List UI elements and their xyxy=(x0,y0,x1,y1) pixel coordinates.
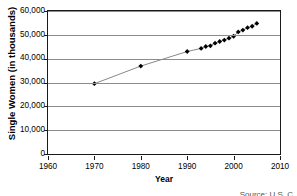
data-point-marker xyxy=(227,36,232,41)
y-axis-tick-mark xyxy=(44,35,48,36)
gridline-horizontal xyxy=(48,11,280,12)
data-point-marker xyxy=(250,24,255,29)
data-point-marker xyxy=(199,46,204,51)
x-axis-tick-mark xyxy=(48,156,49,160)
data-point-marker xyxy=(138,64,143,69)
gridline-horizontal xyxy=(48,35,280,36)
x-axis-tick-label: 1990 xyxy=(167,162,207,171)
x-axis-tick-label: 1970 xyxy=(74,162,114,171)
x-axis-tick-label: 2000 xyxy=(214,162,254,171)
gridline-horizontal xyxy=(48,83,280,84)
y-axis-tick-mark xyxy=(44,11,48,12)
x-axis-title: Year xyxy=(47,174,281,184)
series-line xyxy=(94,23,256,83)
x-axis-tick-mark xyxy=(280,156,281,160)
data-point-marker xyxy=(240,28,245,33)
x-axis-tick-mark xyxy=(187,156,188,160)
x-axis-tick-label: 2010 xyxy=(260,162,297,171)
x-axis-tick-label: 1960 xyxy=(28,162,68,171)
y-axis-tick-label: 40,000 xyxy=(3,54,45,62)
y-axis-tick-mark xyxy=(44,154,48,155)
data-point-marker xyxy=(254,21,259,26)
y-axis-tick-mark xyxy=(44,106,48,107)
data-point-marker xyxy=(203,44,208,49)
x-axis-tick-mark xyxy=(141,156,142,160)
data-point-marker xyxy=(245,25,250,30)
y-axis-tick-label: 50,000 xyxy=(3,31,45,39)
x-axis-tick-labels: 196019701980199020002010 xyxy=(0,162,297,174)
gridline-horizontal xyxy=(48,106,280,107)
data-point-marker xyxy=(213,41,218,46)
y-axis-tick-label: 20,000 xyxy=(3,102,45,110)
data-point-marker xyxy=(217,39,222,44)
gridline-horizontal xyxy=(48,130,280,131)
gridline-horizontal xyxy=(48,59,280,60)
y-axis-tick-label: 30,000 xyxy=(3,78,45,86)
x-axis-tick-mark xyxy=(94,156,95,160)
y-axis-tick-mark xyxy=(44,130,48,131)
x-axis-tick-mark xyxy=(234,156,235,160)
chart-figure: Single Women (in thousands) 010,00020,00… xyxy=(0,0,297,196)
y-axis-tick-label: 60,000 xyxy=(3,7,45,15)
data-point-marker xyxy=(185,49,190,54)
y-axis-tick-label: 10,000 xyxy=(3,126,45,134)
plot-area xyxy=(47,10,281,155)
y-axis-tick-label: 0 xyxy=(3,150,45,158)
source-note: Source: U.S. C xyxy=(240,190,293,196)
y-axis-tick-mark xyxy=(44,59,48,60)
data-point-marker xyxy=(222,38,227,43)
y-axis-tick-mark xyxy=(44,83,48,84)
x-axis-tick-label: 1980 xyxy=(121,162,161,171)
data-point-marker xyxy=(208,43,213,48)
